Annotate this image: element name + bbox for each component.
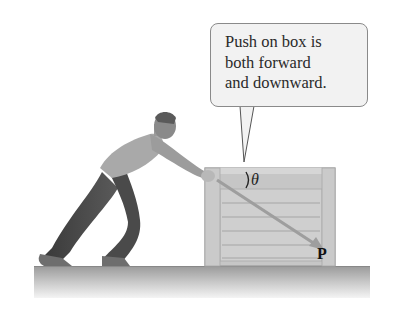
angle-label-theta: θ xyxy=(251,171,259,189)
callout-line-1: Push on box is xyxy=(225,32,357,53)
physics-figure: Push on box is both forward and downward… xyxy=(0,0,398,312)
callout-line-3: and downward. xyxy=(225,73,357,94)
crate xyxy=(205,168,335,266)
floor xyxy=(34,266,370,298)
force-label-p: P xyxy=(317,245,327,263)
callout-line-2: both forward xyxy=(225,53,357,74)
person-pushing xyxy=(39,112,215,266)
callout-bubble: Push on box is both forward and downward… xyxy=(210,23,368,107)
callout-pointer xyxy=(240,106,254,162)
